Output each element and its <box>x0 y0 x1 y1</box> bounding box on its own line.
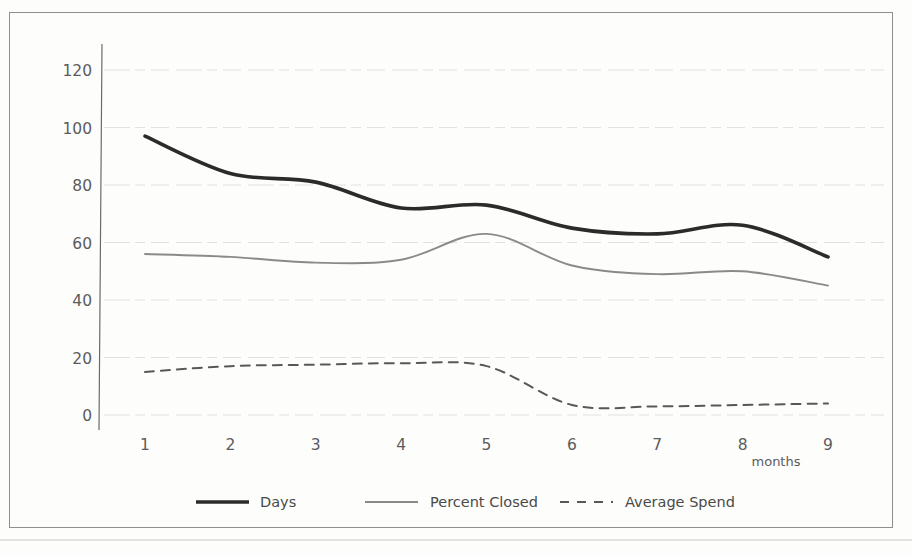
y-axis-line <box>99 44 102 430</box>
y-tick-label: 60 <box>72 235 92 253</box>
data-series-group <box>145 136 828 408</box>
x-tick-label: 6 <box>567 436 577 454</box>
x-tick-label: 8 <box>738 436 748 454</box>
y-tick-label: 80 <box>72 177 92 195</box>
y-tick-label: 100 <box>62 120 92 138</box>
y-tick-label: 0 <box>82 407 92 425</box>
legend-label-percent-closed: Percent Closed <box>430 494 538 510</box>
series-line-days <box>145 136 828 257</box>
series-line-average-spend <box>145 362 828 408</box>
x-axis-title: months <box>752 454 801 469</box>
x-tick-label: 9 <box>823 436 833 454</box>
legend-label-average-spend: Average Spend <box>625 494 735 510</box>
y-tick-label: 40 <box>72 292 92 310</box>
x-tick-label: 2 <box>225 436 235 454</box>
chart-screenshot: 020406080100120 123456789 months DaysPer… <box>0 0 912 555</box>
x-tick-label: 5 <box>482 436 492 454</box>
x-tick-label: 1 <box>140 436 150 454</box>
y-tick-labels: 020406080100120 <box>62 62 92 425</box>
series-line-percent-closed <box>145 234 828 286</box>
y-gridlines <box>104 70 884 415</box>
y-tick-label: 120 <box>62 62 92 80</box>
x-tick-labels: 123456789 <box>140 436 833 454</box>
chart-legend: DaysPercent ClosedAverage Spend <box>196 494 735 510</box>
x-tick-label: 7 <box>652 436 662 454</box>
line-chart: 020406080100120 123456789 months DaysPer… <box>0 0 912 555</box>
y-tick-label: 20 <box>72 350 92 368</box>
x-tick-label: 3 <box>311 436 321 454</box>
x-tick-label: 4 <box>396 436 406 454</box>
legend-label-days: Days <box>260 494 296 510</box>
